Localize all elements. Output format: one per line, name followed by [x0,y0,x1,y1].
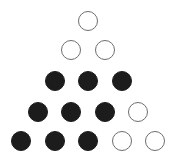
hollow-circle [61,40,81,60]
filled-circle [78,131,98,151]
filled-circle [78,71,98,91]
filled-circle [61,102,81,122]
hollow-circle [78,11,98,31]
filled-circle [11,131,31,151]
hollow-circle [95,40,115,60]
filled-circle [112,71,132,91]
hollow-circle [145,131,165,151]
filled-circle [28,102,48,122]
filled-circle [95,102,115,122]
filled-circle [45,71,65,91]
filled-circle [45,131,65,151]
hollow-circle [112,131,132,151]
hollow-circle [128,102,148,122]
